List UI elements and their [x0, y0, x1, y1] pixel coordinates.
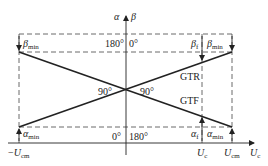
dashed-guides	[19, 34, 232, 143]
beta-f-label: βf	[190, 38, 199, 51]
neg-ucm-label: −Ucm	[8, 147, 30, 160]
gtf-label: GTF	[180, 95, 199, 106]
beta-min-left-label: βmin	[22, 38, 39, 51]
alpha-min-left-label: αmin	[23, 128, 40, 141]
gtr-label: GTR	[180, 71, 200, 82]
beta-axis-label: β	[130, 11, 136, 22]
angle-top-right: 0°	[129, 38, 138, 49]
angle-bottom-right: 180°	[129, 131, 148, 142]
angle-bottom-left: 0°	[112, 131, 121, 142]
angle-cross-left: 90°	[98, 86, 112, 97]
alpha-f-label: αf	[191, 128, 199, 141]
phase-shift-diagram: α β 180° 0° 0° 180° 90° 90° GTR GTF βmin…	[0, 0, 268, 166]
alpha-min-right-label: αmin	[207, 128, 224, 141]
beta-min-right-label: βmin	[206, 38, 223, 51]
angle-top-left: 180°	[105, 38, 124, 49]
alpha-axis-label: α	[114, 11, 120, 22]
x-axis-label: Uc	[250, 147, 260, 160]
ucm-label: Ucm	[224, 147, 240, 160]
angle-cross-right: 90°	[140, 86, 154, 97]
uc-label: Uc	[197, 147, 207, 160]
